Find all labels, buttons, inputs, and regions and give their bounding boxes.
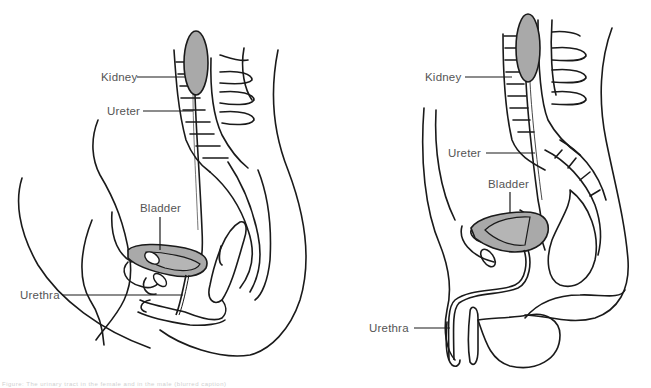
label-ureter-female: Ureter (107, 105, 140, 117)
kidney-shape (516, 14, 540, 82)
label-ureter-male: Ureter (448, 147, 481, 159)
male-urinary-tract-illustration (0, 0, 651, 388)
label-bladder-female: Bladder (140, 202, 181, 214)
anatomy-figure: Kidney Ureter Bladder Urethra Kidney Ure… (0, 0, 651, 388)
figure-caption: Figure: The urinary tract in the female … (2, 381, 226, 387)
label-kidney-male: Kidney (425, 71, 461, 83)
label-urethra-male: Urethra (369, 322, 409, 334)
label-urethra-female: Urethra (20, 289, 60, 301)
label-bladder-male: Bladder (488, 178, 529, 190)
label-kidney-female: Kidney (101, 71, 137, 83)
